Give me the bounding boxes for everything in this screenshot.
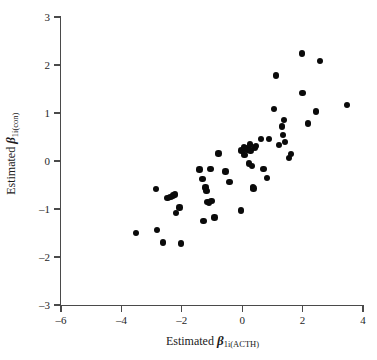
y-tick-mark [54, 208, 61, 209]
x-tick-label: 2 [291, 315, 315, 326]
data-point [279, 123, 285, 129]
scatter-plot-figure: 3210–1–2–3 –6–4–2024 Estimated β1i(ACTH)… [0, 0, 377, 360]
data-point [203, 188, 209, 194]
data-point [266, 136, 272, 142]
data-point [249, 163, 255, 169]
y-axis-label-prefix: Estimated [4, 144, 18, 195]
x-axis-label-prefix: Estimated [166, 334, 217, 348]
y-tick-label: 1 [28, 108, 50, 119]
y-tick-label: –3 [28, 300, 50, 311]
y-tick-label: 3 [28, 12, 50, 23]
data-point [208, 198, 214, 204]
y-tick-mark [54, 256, 61, 257]
y-tick-mark [54, 112, 61, 113]
y-tick-label: 0 [28, 156, 50, 167]
x-tick-mark [60, 305, 61, 312]
x-axis-line [61, 305, 364, 306]
y-tick-label: 2 [28, 60, 50, 71]
data-point [260, 166, 266, 172]
x-tick-mark [362, 305, 363, 312]
x-axis-label-subscript: 1i(ACTH) [224, 339, 259, 349]
y-tick-label: –1 [28, 204, 50, 215]
data-point [215, 150, 221, 156]
data-point [160, 239, 166, 245]
data-point [299, 90, 305, 96]
y-tick-label: –2 [28, 252, 50, 263]
x-tick-mark [302, 305, 303, 312]
data-point [238, 207, 244, 213]
x-tick-label: –2 [170, 315, 194, 326]
data-point [172, 191, 178, 197]
x-tick-label: –4 [109, 315, 133, 326]
x-tick-mark [242, 305, 243, 312]
data-point [305, 120, 311, 126]
data-point [196, 166, 202, 172]
data-point [226, 179, 232, 185]
y-axis-label: Estimated β1i(con) [4, 9, 21, 299]
data-point [207, 166, 213, 172]
x-tick-label: 4 [351, 315, 375, 326]
x-tick-mark [121, 305, 122, 312]
data-point [200, 218, 206, 224]
y-axis-label-container: Estimated β1i(con) [0, 0, 22, 305]
y-axis-label-subscript: 1i(con) [10, 113, 20, 138]
x-axis-label: Estimated β1i(ACTH) [61, 334, 364, 351]
y-tick-mark [54, 160, 61, 161]
x-tick-mark [181, 305, 182, 312]
data-point [273, 72, 279, 78]
x-tick-label: 0 [230, 315, 254, 326]
data-point [264, 175, 270, 181]
data-point [250, 185, 256, 191]
x-tick-label: –6 [49, 315, 73, 326]
data-point [176, 204, 182, 210]
data-point [299, 50, 305, 56]
y-tick-mark [54, 64, 61, 65]
y-axis-label-symbol: β [3, 137, 18, 144]
data-point [222, 168, 228, 174]
y-tick-mark [54, 16, 61, 17]
data-point [211, 214, 217, 220]
data-point [199, 176, 205, 182]
x-axis-label-symbol: β [217, 333, 224, 348]
